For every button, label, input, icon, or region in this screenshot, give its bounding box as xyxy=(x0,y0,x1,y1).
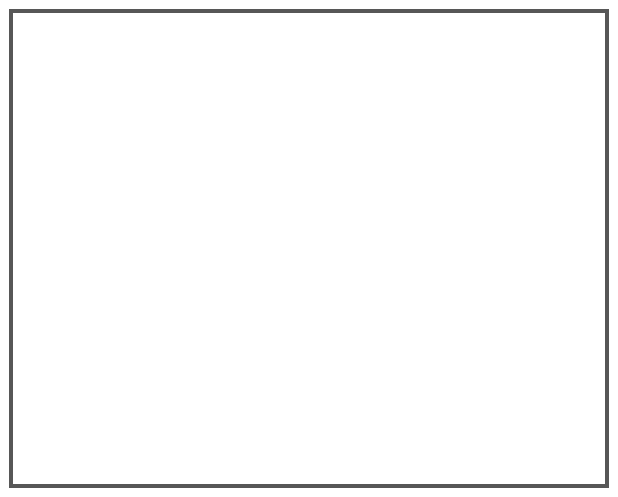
pressure-center-high-north: H xyxy=(297,77,324,115)
pressure-center-high-west: H xyxy=(173,219,200,257)
pressure-center-low-plains: L xyxy=(265,234,288,272)
day-label: Day 2 xyxy=(33,38,121,72)
weather-map: Day 2 H H H L xyxy=(0,0,618,497)
pressure-center-high-east: H xyxy=(518,96,545,134)
